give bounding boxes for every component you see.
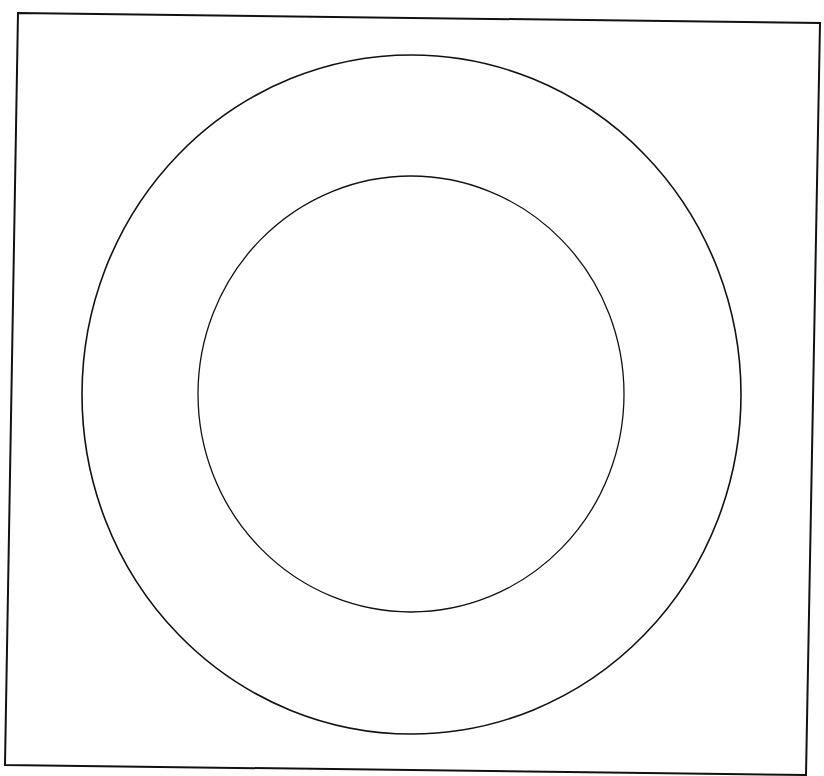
square-frame xyxy=(5,13,820,775)
inner-circle xyxy=(198,176,624,612)
outer-circle xyxy=(82,55,741,734)
concentric-circles-diagram xyxy=(0,0,824,776)
